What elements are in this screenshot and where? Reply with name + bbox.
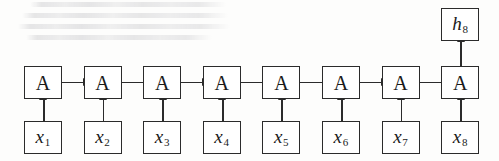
cell-box-1: A (24, 66, 62, 99)
cell-box-5-label: A (274, 73, 288, 93)
cell-box-2: A (84, 66, 122, 99)
input-box-1: x1 (24, 121, 62, 154)
cell-box-4: A (203, 66, 241, 99)
cell-box-3: A (143, 66, 181, 99)
bleedthrough-line (30, 2, 226, 7)
input-box-8-label: x8 (453, 127, 468, 148)
edge-input-7-to-cell-7 (401, 99, 403, 121)
input-box-3: x3 (143, 121, 181, 154)
input-box-3-label: x3 (155, 127, 170, 148)
cell-box-1-label: A (36, 73, 50, 93)
cell-box-6: A (322, 66, 360, 99)
cell-box-3-label: A (155, 73, 169, 93)
cell-box-8: A (441, 66, 479, 99)
input-box-5: x5 (262, 121, 300, 154)
bleedthrough-line (18, 24, 230, 29)
rnn-diagram-figure: x1x2x3x4x5x6x7x8AAAAAAAAh8 (0, 0, 499, 161)
output-box: h8 (441, 8, 479, 41)
edge-cell-2-to-cell-3 (122, 82, 144, 84)
input-box-6-label: x6 (334, 127, 349, 148)
edge-cell-7-to-cell-8 (420, 82, 442, 84)
cell-box-5: A (262, 66, 300, 99)
edge-input-8-to-cell-8 (460, 99, 462, 121)
cell-box-8-label: A (453, 73, 467, 93)
cell-box-4-label: A (215, 73, 229, 93)
output-box-label: h8 (452, 14, 468, 35)
cell-box-7: A (382, 66, 420, 99)
edge-input-5-to-cell-5 (281, 99, 283, 121)
edge-input-4-to-cell-4 (222, 99, 224, 121)
edge-input-6-to-cell-6 (341, 99, 343, 121)
edge-cell-1-to-cell-2 (62, 82, 84, 84)
cell-box-6-label: A (334, 73, 348, 93)
edge-input-2-to-cell-2 (103, 99, 105, 121)
bleedthrough-line (26, 35, 212, 40)
bleedthrough-line (22, 13, 228, 18)
input-box-2-label: x2 (95, 127, 110, 148)
cell-box-2-label: A (95, 73, 109, 93)
edge-cell-5-to-cell-6 (300, 82, 322, 84)
input-box-8: x8 (441, 121, 479, 154)
input-box-1-label: x1 (36, 127, 51, 148)
input-box-7-label: x7 (393, 127, 408, 148)
edge-input-1-to-cell-1 (43, 99, 45, 121)
edge-cell-6-to-cell-7 (360, 82, 382, 84)
input-box-2: x2 (84, 121, 122, 154)
background-bleedthrough-text (0, 0, 260, 52)
edge-cell-3-to-cell-4 (181, 82, 203, 84)
input-box-4-label: x4 (214, 127, 229, 148)
edge-cell-4-to-cell-5 (241, 82, 263, 84)
input-box-4: x4 (203, 121, 241, 154)
input-box-6: x6 (322, 121, 360, 154)
input-box-5-label: x5 (274, 127, 289, 148)
input-box-7: x7 (382, 121, 420, 154)
edge-input-3-to-cell-3 (162, 99, 164, 121)
edge-cell-8-to-output (460, 41, 462, 66)
cell-box-7-label: A (393, 73, 407, 93)
